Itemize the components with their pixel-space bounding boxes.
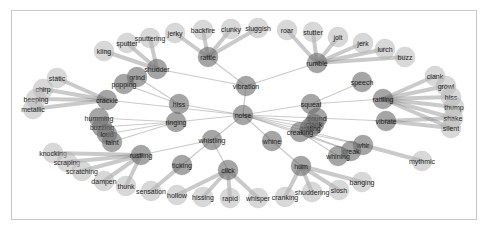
node-crackle[interactable]: crackle <box>96 90 118 110</box>
node-noise[interactable]: noise <box>233 105 253 125</box>
node-stutter[interactable]: stutter <box>303 22 323 42</box>
node-label: whining <box>325 153 350 161</box>
node-hollow[interactable]: hollow <box>167 185 188 205</box>
node-label: whine <box>262 138 281 145</box>
node-label: squeal <box>301 101 322 109</box>
node-label: crackle <box>96 97 118 104</box>
node-label: popping <box>112 81 137 89</box>
node-hissle[interactable]: hiss <box>169 94 189 114</box>
node-click[interactable]: click <box>218 160 238 180</box>
node-label: speech <box>351 79 374 87</box>
node-label: ticking <box>172 162 192 170</box>
node-shuddering[interactable]: shuddering <box>295 182 330 202</box>
node-silent[interactable]: silent <box>441 118 461 138</box>
node-label: clunky <box>221 26 241 34</box>
node-jerk[interactable]: jerk <box>353 33 373 53</box>
node-backfire[interactable]: backfire <box>191 20 216 40</box>
node-roar[interactable]: roar <box>277 20 297 40</box>
node-label: click <box>221 167 235 174</box>
node-label: sluggish <box>245 25 271 33</box>
node-label: roar <box>281 27 294 34</box>
node-label: dampen <box>91 178 116 186</box>
node-speech[interactable]: speech <box>351 72 374 92</box>
node-label: noise <box>235 112 252 119</box>
node-jolt[interactable]: jolt <box>328 27 348 47</box>
node-label: vibrate <box>375 118 396 125</box>
node-label: hum <box>294 163 308 170</box>
node-label: backfire <box>191 27 216 34</box>
node-mythmic[interactable]: mythmic <box>409 151 436 171</box>
node-label: sensation <box>136 188 166 195</box>
node-label: silent <box>443 125 459 132</box>
node-label: rumble <box>306 60 328 67</box>
node-label: static <box>49 75 66 82</box>
node-thunk[interactable]: thunk <box>116 176 136 196</box>
node-label: creaking <box>287 129 314 137</box>
node-label: metallic <box>21 106 45 113</box>
node-label: lurch <box>377 46 392 53</box>
node-rattling[interactable]: rattling <box>372 89 393 109</box>
node-label: shudder <box>144 66 170 73</box>
node-label: whistling <box>198 137 226 145</box>
node-label: ringing <box>165 119 186 127</box>
node-label: whisper <box>245 195 271 203</box>
node-ticking[interactable]: ticking <box>172 155 192 175</box>
node-label: rattle <box>200 54 216 61</box>
node-label: hiss <box>173 101 186 108</box>
node-label: sputtering <box>135 35 166 43</box>
node-label: kling <box>97 48 112 56</box>
node-label: scratching <box>66 168 98 176</box>
node-label: jerk <box>356 40 369 48</box>
node-label: buzz <box>398 54 413 61</box>
node-label: stutter <box>303 29 323 36</box>
node-banging[interactable]: banging <box>350 172 375 192</box>
node-label: faint <box>105 139 118 146</box>
node-vibrate[interactable]: vibrate <box>375 111 396 131</box>
node-sputtering[interactable]: sputtering <box>135 28 166 48</box>
node-kling[interactable]: kling <box>94 41 114 61</box>
node-label: mythmic <box>409 158 436 166</box>
node-whine[interactable]: whine <box>262 131 282 151</box>
node-label: slosh <box>331 187 347 194</box>
node-hum[interactable]: hum <box>291 156 311 176</box>
node-label: hollow <box>167 192 188 199</box>
node-label: hissing <box>192 194 214 202</box>
node-label: rapid <box>222 195 238 203</box>
node-label: thunk <box>117 183 135 190</box>
node-faint[interactable]: faint <box>102 132 122 152</box>
network-graph: noisevibrationrattlerumbleshuddergrindpo… <box>0 0 486 228</box>
node-lurch[interactable]: lurch <box>375 39 395 59</box>
node-label: vibration <box>233 83 260 90</box>
node-label: banging <box>350 179 375 187</box>
node-rapid[interactable]: rapid <box>220 188 240 208</box>
node-label: jolt <box>333 34 343 42</box>
node-ringing[interactable]: ringing <box>165 112 186 132</box>
node-label: shuddering <box>295 189 330 197</box>
node-label: rustling <box>130 152 153 160</box>
node-slosh[interactable]: slosh <box>329 180 349 200</box>
node-clunky[interactable]: clunky <box>221 19 241 39</box>
node-label: rattling <box>372 96 393 104</box>
node-layer: noisevibrationrattlerumbleshuddergrindpo… <box>21 18 464 208</box>
node-rattle[interactable]: rattle <box>198 47 218 67</box>
node-buzz[interactable]: buzz <box>395 47 415 67</box>
node-label: jerky <box>167 30 183 38</box>
node-jerky[interactable]: jerky <box>165 23 185 43</box>
